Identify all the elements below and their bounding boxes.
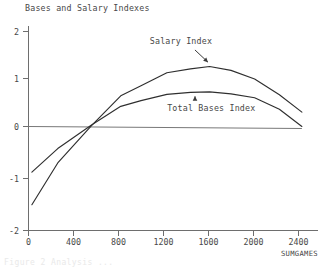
x-tick-label-1600: 1600 [199,237,219,247]
footer-ghost-text: Figure 2 Analysis ... [4,258,114,267]
total-bases-index-annotation: Total Bases Index [167,96,255,112]
y-tick-label-neg2: -2 [9,226,19,236]
y-tick-label-neg1: -1 [9,174,19,184]
x-tick-label-400: 400 [66,237,81,247]
total-bases-index-arrow-head [193,96,198,100]
y-tick-label-0: 0 [14,122,19,132]
x-tick-label-1200: 1200 [154,237,174,247]
salary-index-annotation: Salary Index [150,36,212,62]
total-bases-index-annotation-label: Total Bases Index [167,103,255,113]
x-axis-label: SUMGAMES [281,249,318,258]
x-axis-ticks [29,231,299,237]
x-tick-label-0: 0 [26,237,31,247]
chart-title: Bases and Salary Indexes [25,3,150,13]
bases-and-salary-indexes-chart: Bases and Salary Indexes 2 1 0 -1 -2 [0,0,326,271]
chart-container: Bases and Salary Indexes 2 1 0 -1 -2 [0,0,326,271]
salary-index-line [32,67,302,205]
x-tick-label-2400: 2400 [289,237,309,247]
y-tick-label-1: 1 [14,74,19,84]
x-tick-label-2000: 2000 [244,237,264,247]
y-tick-label-2: 2 [14,27,19,37]
salary-index-annotation-label: Salary Index [150,36,212,46]
x-tick-label-800: 800 [111,237,126,247]
zero-reference-line [29,127,302,129]
y-axis-ticks [23,32,29,231]
